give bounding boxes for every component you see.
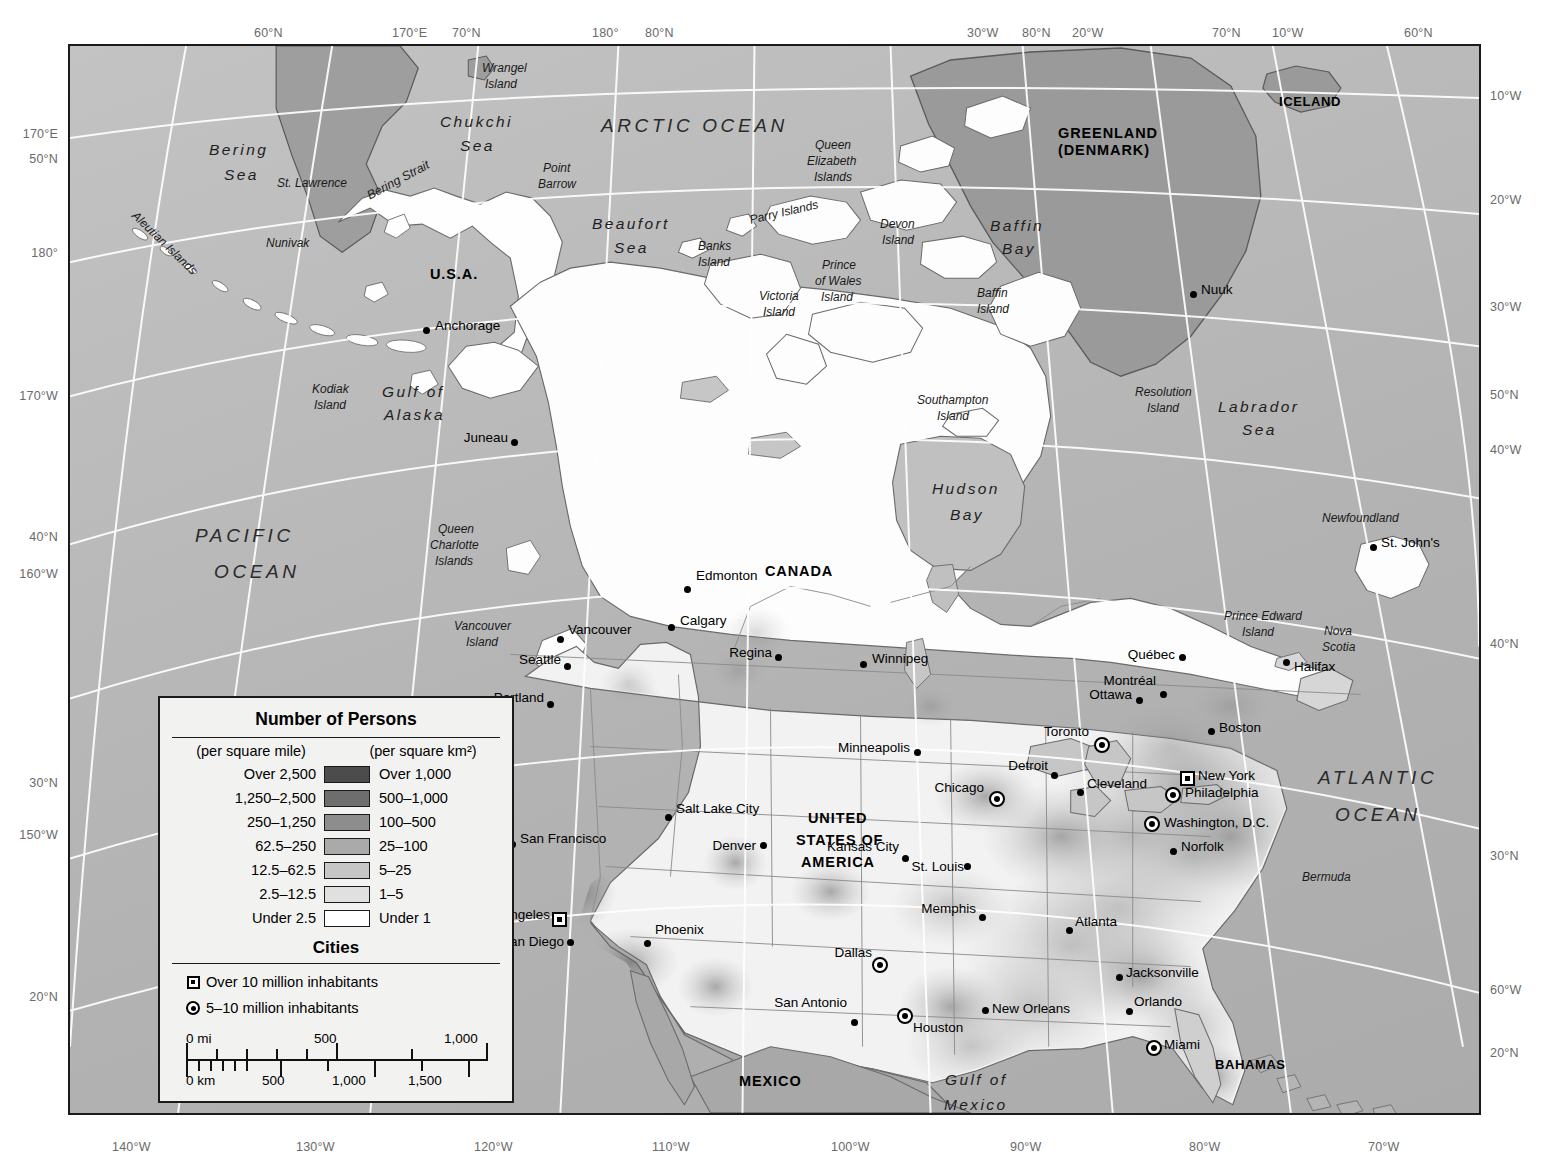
city-symbol-dot[interactable] [979, 914, 986, 921]
coordinate-label: 70°N [1212, 26, 1241, 40]
scale-bar: 0 mi 500 1,000 0 km 500 1,000 1,500 [186, 1033, 494, 1089]
city-symbol-dot[interactable] [914, 749, 921, 756]
scale-tick [222, 1059, 224, 1071]
city-symbol-dot[interactable] [851, 1019, 858, 1026]
scale-tick [186, 1059, 188, 1077]
legend-city-class-label: Over 10 million inhabitants [206, 974, 378, 990]
legend-title: Number of Persons [172, 706, 500, 735]
coordinate-label: 180° [592, 26, 619, 40]
city-symbol-dot[interactable] [423, 327, 430, 334]
legend-divider-1 [172, 737, 500, 738]
city-symbol-large[interactable] [897, 1008, 913, 1024]
city-symbol-dot[interactable] [644, 940, 651, 947]
city-symbol-dot[interactable] [1126, 1008, 1133, 1015]
city-symbol-dot[interactable] [760, 842, 767, 849]
city-symbol-large[interactable] [1094, 737, 1110, 753]
city-symbol-megacity[interactable] [1180, 771, 1195, 786]
coordinate-label: 80°N [1022, 26, 1051, 40]
city-symbol-dot[interactable] [567, 939, 574, 946]
coordinate-label: 170°E [392, 26, 427, 40]
city-symbol-dot[interactable] [668, 624, 675, 631]
map-legend: Number of Persons (per square mile) (per… [158, 696, 514, 1103]
coordinate-label: 30°W [967, 26, 999, 40]
scale-tick [306, 1049, 308, 1061]
legend-color-swatch [324, 814, 370, 831]
scale-tick [280, 1059, 282, 1077]
city-symbol-large[interactable] [1144, 816, 1160, 832]
coordinate-label: 150°W [0, 828, 58, 842]
city-symbol-dot[interactable] [564, 663, 571, 670]
legend-header-km: (per square km²) [330, 743, 500, 759]
legend-color-swatch [324, 886, 370, 903]
legend-value-miles: Under 2.5 [172, 910, 324, 926]
city-symbol-dot[interactable] [1283, 659, 1290, 666]
city-symbol-dot[interactable] [1208, 728, 1215, 735]
city-symbol-dot[interactable] [1170, 848, 1177, 855]
coordinate-label: 20°N [1490, 1046, 1519, 1060]
coordinate-label: 30°N [0, 776, 58, 790]
city-symbol-dot[interactable] [1136, 697, 1143, 704]
city-symbol-dot[interactable] [775, 654, 782, 661]
scale-tick [336, 1043, 338, 1061]
city-symbol-large[interactable] [989, 791, 1005, 807]
legend-header-miles: (per square mile) [172, 743, 330, 759]
city-symbol-dot[interactable] [1051, 772, 1058, 779]
legend-row: Under 2.5Under 1 [172, 906, 500, 930]
coordinate-label: 30°N [1490, 849, 1519, 863]
city-symbol-dot[interactable] [860, 661, 867, 668]
city-symbol-dot[interactable] [1370, 544, 1377, 551]
coordinate-label: 160°W [0, 567, 58, 581]
city-symbol-dot[interactable] [982, 1007, 989, 1014]
coordinate-label: 140°W [112, 1140, 151, 1154]
city-symbol-dot[interactable] [1160, 691, 1167, 698]
city-symbol-dot[interactable] [1179, 654, 1186, 661]
legend-value-miles: 1,250–2,500 [172, 790, 324, 806]
city-symbol-large[interactable] [1165, 787, 1181, 803]
coordinate-label: 10°W [1490, 89, 1522, 103]
coordinate-label: 40°W [1490, 443, 1522, 457]
scale-tick [276, 1049, 278, 1061]
city-symbol-megacity[interactable] [552, 912, 567, 927]
coordinate-label: 80°W [1189, 1140, 1221, 1154]
coordinate-label: 90°W [1010, 1140, 1042, 1154]
legend-value-km: 1–5 [370, 886, 500, 902]
legend-column-headers: (per square mile) (per square km²) [172, 743, 500, 762]
city-symbol-dot[interactable] [1066, 927, 1073, 934]
scale-tick [468, 1059, 470, 1077]
legend-value-km: 100–500 [370, 814, 500, 830]
coordinate-label: 20°N [0, 990, 58, 1004]
city-symbol-large[interactable] [1146, 1040, 1162, 1056]
city-symbol-dot[interactable] [547, 701, 554, 708]
coordinate-label: 60°W [1490, 983, 1522, 997]
city-symbol-dot[interactable] [684, 586, 691, 593]
city-symbol-dot[interactable] [964, 863, 971, 870]
city-symbol-dot[interactable] [511, 439, 518, 446]
coordinate-label: 170°E [0, 127, 58, 141]
coordinate-label: 70°W [1368, 1140, 1400, 1154]
coordinate-label: 110°W [652, 1140, 690, 1154]
city-symbol-dot[interactable] [557, 636, 564, 643]
legend-cities-title: Cities [172, 930, 500, 961]
legend-value-miles: 250–1,250 [172, 814, 324, 830]
scale-tick [198, 1059, 200, 1071]
city-symbol-dot[interactable] [1116, 974, 1123, 981]
coordinate-label: 170°W [0, 389, 58, 403]
city-symbol-large[interactable] [872, 957, 888, 973]
legend-row: 250–1,250100–500 [172, 810, 500, 834]
scale-tick [411, 1049, 413, 1061]
map-canvas[interactable]: RUSSIAU.S.A.CANADAGREENLAND(DENMARK)ICEL… [68, 44, 1481, 1115]
symbol-glyph [186, 1001, 200, 1015]
legend-row: 12.5–62.55–25 [172, 858, 500, 882]
coordinate-label: 180° [0, 246, 58, 260]
city-symbol-dot[interactable] [902, 855, 909, 862]
city-symbol-dot[interactable] [1190, 291, 1197, 298]
legend-row: 62.5–25025–100 [172, 834, 500, 858]
city-symbol-dot[interactable] [665, 814, 672, 821]
city-symbol-dot[interactable] [1077, 789, 1084, 796]
scale-km-zero: 0 km [186, 1073, 215, 1088]
country-label: CUBA [1169, 1114, 1209, 1115]
legend-color-swatch [324, 910, 370, 927]
coordinate-label: 100°W [831, 1140, 870, 1154]
coordinate-label: 20°W [1490, 193, 1522, 207]
legend-row: Over 2,500Over 1,000 [172, 762, 500, 786]
